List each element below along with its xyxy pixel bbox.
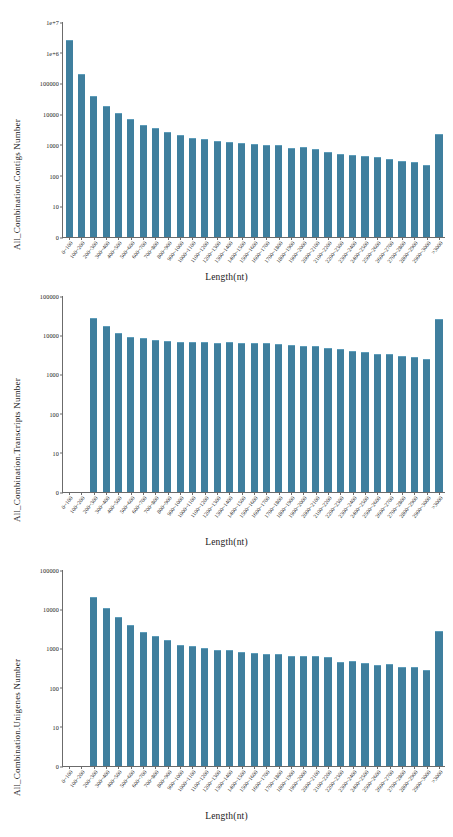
bar[interactable]: [140, 632, 147, 766]
bar[interactable]: [140, 125, 147, 237]
bar[interactable]: [127, 119, 134, 237]
bar[interactable]: [251, 343, 258, 492]
bar[interactable]: [324, 348, 331, 492]
bar[interactable]: [189, 342, 196, 492]
bar[interactable]: [337, 349, 344, 492]
bar[interactable]: [177, 645, 184, 766]
bar[interactable]: [312, 346, 319, 492]
bar[interactable]: [349, 155, 356, 237]
bar[interactable]: [411, 667, 418, 766]
bar[interactable]: [374, 157, 381, 237]
bar[interactable]: [103, 106, 110, 237]
bar[interactable]: [152, 340, 159, 492]
bar[interactable]: [103, 608, 110, 766]
bar[interactable]: [164, 640, 171, 766]
bar[interactable]: [115, 333, 122, 492]
bar[interactable]: [127, 625, 134, 766]
bar[interactable]: [263, 145, 270, 237]
bar[interactable]: [300, 147, 307, 237]
bar[interactable]: [177, 135, 184, 237]
bar[interactable]: [275, 344, 282, 492]
bar[interactable]: [423, 670, 430, 766]
bar[interactable]: [152, 128, 159, 237]
bar[interactable]: [361, 352, 368, 492]
bar[interactable]: [238, 343, 245, 492]
bar[interactable]: [164, 341, 171, 492]
bar[interactable]: [189, 646, 196, 766]
bar[interactable]: [90, 96, 97, 237]
bar-slot: [223, 22, 235, 237]
bar[interactable]: [324, 152, 331, 237]
bar[interactable]: [115, 113, 122, 237]
bar[interactable]: [423, 165, 430, 237]
bar[interactable]: [251, 144, 258, 237]
bar-slot: [63, 570, 75, 766]
bar[interactable]: [127, 337, 134, 492]
bar[interactable]: [275, 145, 282, 237]
bar[interactable]: [201, 342, 208, 492]
bar[interactable]: [312, 656, 319, 766]
bar-slot: [347, 22, 359, 237]
bar[interactable]: [337, 662, 344, 766]
bar[interactable]: [398, 667, 405, 766]
bar-slot: [347, 570, 359, 766]
bar[interactable]: [386, 159, 393, 237]
bar[interactable]: [238, 143, 245, 237]
bar[interactable]: [349, 351, 356, 492]
bar[interactable]: [300, 346, 307, 492]
bar[interactable]: [411, 162, 418, 237]
bar[interactable]: [214, 141, 221, 237]
bar[interactable]: [288, 345, 295, 492]
bar[interactable]: [238, 652, 245, 766]
bar[interactable]: [361, 156, 368, 237]
bar[interactable]: [201, 139, 208, 237]
bar[interactable]: [214, 650, 221, 766]
bar[interactable]: [423, 359, 430, 492]
bar[interactable]: [78, 74, 85, 237]
bar[interactable]: [337, 154, 344, 237]
bar[interactable]: [411, 357, 418, 492]
y-axis-tick-label: 100000: [40, 293, 63, 300]
bar[interactable]: [103, 326, 110, 492]
bar[interactable]: [251, 653, 258, 766]
bar[interactable]: [152, 636, 159, 766]
bar-slot: [137, 570, 149, 766]
bar[interactable]: [349, 661, 356, 766]
bar-slot: [371, 570, 383, 766]
bar[interactable]: [398, 161, 405, 237]
bar[interactable]: [189, 138, 196, 237]
bar[interactable]: [386, 354, 393, 492]
bar[interactable]: [374, 354, 381, 492]
bar[interactable]: [288, 148, 295, 237]
bar[interactable]: [435, 631, 442, 767]
bar[interactable]: [398, 356, 405, 492]
bar[interactable]: [361, 663, 368, 766]
bar-slot: [359, 570, 371, 766]
bar[interactable]: [214, 343, 221, 492]
bar[interactable]: [435, 134, 442, 237]
bar[interactable]: [263, 343, 270, 492]
bar[interactable]: [300, 656, 307, 766]
bar[interactable]: [226, 342, 233, 492]
bar[interactable]: [177, 342, 184, 492]
bar[interactable]: [263, 654, 270, 766]
bar[interactable]: [435, 319, 442, 492]
bar[interactable]: [140, 338, 147, 492]
x-axis-tick-mark: [69, 492, 70, 495]
bar[interactable]: [312, 149, 319, 237]
bar-slot: [322, 22, 334, 237]
bar[interactable]: [66, 40, 73, 237]
bar[interactable]: [115, 617, 122, 766]
bar[interactable]: [201, 648, 208, 766]
bar[interactable]: [386, 664, 393, 766]
bar[interactable]: [324, 657, 331, 766]
bar[interactable]: [226, 142, 233, 237]
bar[interactable]: [275, 654, 282, 766]
bar[interactable]: [90, 597, 97, 766]
bar[interactable]: [164, 132, 171, 237]
bar[interactable]: [90, 318, 97, 492]
bar[interactable]: [226, 650, 233, 766]
bar[interactable]: [288, 656, 295, 766]
x-axis-tick-mark: [69, 766, 70, 769]
bar[interactable]: [374, 665, 381, 766]
